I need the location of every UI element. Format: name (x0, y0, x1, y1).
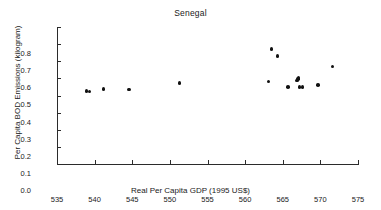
y-axis-tick (57, 61, 61, 62)
data-point (267, 80, 271, 84)
data-point (276, 54, 280, 58)
x-axis-title: Real Per Capita GDP (1995 US$) (0, 186, 381, 195)
x-axis-tick-label: 535 (42, 196, 72, 204)
x-axis-tick (95, 160, 96, 164)
y-axis-tick (57, 27, 61, 28)
x-axis-tick-label: 540 (80, 196, 110, 204)
x-axis-tick-label: 550 (155, 196, 185, 204)
y-axis-tick (57, 147, 61, 148)
x-axis-tick-label: 565 (268, 196, 298, 204)
y-axis-tick (57, 113, 61, 114)
x-axis-tick-label: 545 (117, 196, 147, 204)
data-point (297, 76, 301, 80)
x-axis-tick (358, 160, 359, 164)
x-axis-tick (320, 160, 321, 164)
data-point (301, 85, 305, 89)
x-axis-tick (170, 160, 171, 164)
x-axis-tick-label: 575 (343, 196, 373, 204)
x-axis-tick (283, 160, 284, 164)
x-axis-tick (208, 160, 209, 164)
y-axis-tick (57, 78, 61, 79)
x-axis-tick-label: 555 (193, 196, 223, 204)
data-point (270, 47, 274, 51)
x-axis-tick-label: 570 (305, 196, 335, 204)
y-axis-tick (57, 130, 61, 131)
data-point (88, 90, 92, 94)
chart-title: Senegal (0, 8, 381, 18)
data-point (102, 87, 106, 91)
y-axis-tick (57, 164, 61, 165)
x-axis-tick (57, 160, 58, 164)
x-axis-tick (245, 160, 246, 164)
data-point (331, 65, 335, 69)
x-axis-line (57, 164, 359, 165)
y-axis-tick (57, 44, 61, 45)
scatter-chart: Senegal 0.00.10.20.30.40.50.60.70.853554… (0, 0, 381, 210)
data-point (316, 83, 320, 87)
data-point (127, 88, 131, 92)
data-point (178, 81, 182, 85)
y-axis-tick (57, 96, 61, 97)
y-axis-title: Per Capita BOD Emissions (kilogram) (13, 8, 22, 178)
x-axis-tick (132, 160, 133, 164)
x-axis-tick-label: 560 (230, 196, 260, 204)
data-point (286, 85, 290, 89)
plot-area: 0.00.10.20.30.40.50.60.70.85355405455505… (57, 27, 358, 164)
